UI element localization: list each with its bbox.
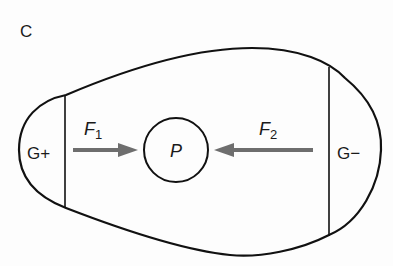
force-arrow-f1 xyxy=(73,143,138,157)
region-label-g-minus: G− xyxy=(337,144,360,163)
diagram-canvas: C G+ G− P F1 F2 xyxy=(0,0,393,266)
force-arrow-f2 xyxy=(214,143,313,157)
particle-label: P xyxy=(170,141,182,161)
panel-label: C xyxy=(20,22,32,41)
force-label-f2: F2 xyxy=(259,119,277,142)
force-label-f1: F1 xyxy=(84,119,102,142)
region-label-g-plus: G+ xyxy=(27,144,50,163)
